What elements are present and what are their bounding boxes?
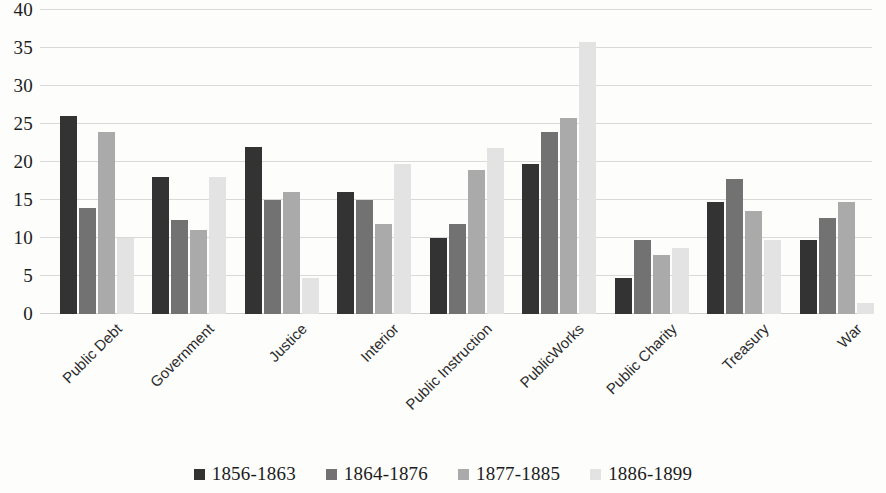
bar xyxy=(190,230,207,314)
plot-area xyxy=(40,10,872,314)
bar xyxy=(634,240,651,314)
y-axis: 0510152025303540 xyxy=(0,0,40,314)
legend-swatch-icon xyxy=(590,469,601,480)
bar xyxy=(209,177,226,314)
bar xyxy=(468,170,485,314)
y-tick-label-15: 15 xyxy=(14,189,33,211)
bar-group xyxy=(780,10,872,314)
bar xyxy=(264,200,281,314)
x-axis-label: Public Debt xyxy=(59,320,125,386)
bar xyxy=(449,224,466,314)
bar xyxy=(522,164,539,314)
bar-group xyxy=(410,10,502,314)
bar xyxy=(764,240,781,314)
y-tick-label-10: 10 xyxy=(14,227,33,249)
legend-item[interactable]: 1856-1863 xyxy=(194,463,296,485)
legend-label: 1877-1885 xyxy=(476,463,560,485)
bar xyxy=(560,118,577,314)
x-axis-label: Treasury xyxy=(719,320,772,373)
bar-group xyxy=(132,10,224,314)
legend-swatch-icon xyxy=(326,469,337,480)
bar xyxy=(707,202,724,314)
bar xyxy=(579,42,596,314)
bar xyxy=(800,240,817,314)
bar xyxy=(356,200,373,314)
bar xyxy=(726,179,743,314)
bar xyxy=(375,224,392,314)
bar xyxy=(79,208,96,314)
y-tick-label-35: 35 xyxy=(14,37,33,59)
bar xyxy=(745,211,762,314)
bar xyxy=(838,202,855,314)
bar xyxy=(653,255,670,314)
legend: 1856-18631864-18761877-18851886-1899 xyxy=(0,460,886,488)
bar-chart: 0510152025303540 Public DebtGovernmentJu… xyxy=(0,0,886,493)
bar-group xyxy=(502,10,594,314)
y-tick-label-25: 25 xyxy=(14,113,33,135)
y-tick-label-0: 0 xyxy=(23,303,33,325)
bar-group xyxy=(687,10,779,314)
bar-group xyxy=(225,10,317,314)
x-axis-label: Interior xyxy=(357,320,402,365)
x-axis-label: Public Instruction xyxy=(402,320,495,413)
legend-label: 1864-1876 xyxy=(344,463,428,485)
bar xyxy=(302,278,319,314)
legend-swatch-icon xyxy=(458,469,469,480)
bar xyxy=(672,248,689,314)
legend-label: 1886-1899 xyxy=(608,463,692,485)
y-tick-label-5: 5 xyxy=(23,265,33,287)
bar xyxy=(117,238,134,314)
x-axis-label: Justice xyxy=(265,320,310,365)
bar xyxy=(819,218,836,314)
legend-swatch-icon xyxy=(194,469,205,480)
bar xyxy=(171,220,188,314)
bar-groups xyxy=(40,10,872,314)
x-axis-label: War xyxy=(833,320,864,351)
bar-group xyxy=(317,10,409,314)
legend-label: 1856-1863 xyxy=(212,463,296,485)
bar xyxy=(337,192,354,314)
bar xyxy=(430,238,447,314)
bar xyxy=(152,177,169,314)
legend-item[interactable]: 1886-1899 xyxy=(590,463,692,485)
x-axis-labels: Public DebtGovernmentJusticeInteriorPubl… xyxy=(40,314,872,444)
x-axis-label: PublicWorks xyxy=(516,320,587,391)
x-axis-label: Public Charity xyxy=(602,320,679,397)
y-tick-label-20: 20 xyxy=(14,151,33,173)
legend-item[interactable]: 1877-1885 xyxy=(458,463,560,485)
bar-group xyxy=(595,10,687,314)
bar xyxy=(394,164,411,314)
bar xyxy=(857,303,874,314)
y-tick-label-30: 30 xyxy=(14,75,33,97)
bar xyxy=(541,132,558,314)
y-tick-label-40: 40 xyxy=(14,0,33,21)
bar xyxy=(98,132,115,314)
bar xyxy=(487,148,504,314)
legend-item[interactable]: 1864-1876 xyxy=(326,463,428,485)
bar xyxy=(245,147,262,314)
bar xyxy=(283,192,300,314)
bar xyxy=(615,278,632,314)
bar xyxy=(60,116,77,314)
bar-group xyxy=(40,10,132,314)
x-axis-label: Government xyxy=(147,320,217,390)
